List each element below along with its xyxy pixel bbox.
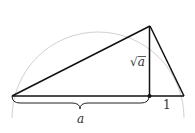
segment-1-label: 1 — [163, 98, 171, 112]
hypotenuse-right — [150, 26, 184, 96]
brace-a — [12, 96, 149, 109]
circumscribed-arc — [12, 32, 184, 118]
altitude-label: √a — [130, 55, 145, 69]
geometric-mean-diagram: √a a 1 — [0, 0, 195, 133]
segment-a-label: a — [77, 112, 84, 126]
sqrt-radicand: a — [138, 55, 145, 69]
